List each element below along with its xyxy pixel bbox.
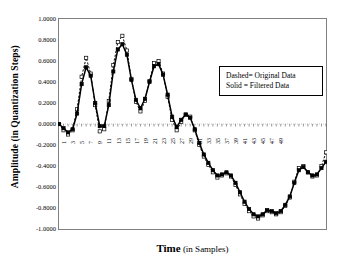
x-tick-label: 3	[70, 141, 76, 144]
y-tick-label: 0.6000	[4, 58, 56, 65]
legend-entry-solid: Solid = Filtered Data	[226, 81, 317, 91]
x-tick-label: 21	[152, 138, 158, 144]
y-tick-label: -0.8000	[4, 205, 56, 212]
y-axis-tick-labels: 1.00000.80000.60000.40000.20000.0000-0.2…	[0, 0, 56, 264]
y-tick-label: 1.0000	[4, 16, 56, 23]
x-axis-title-sub: (in Samples)	[181, 244, 229, 254]
y-tick-label: 0.4000	[4, 79, 56, 86]
x-axis-tick-labels: 1357911131517192123252729313335373941434…	[58, 130, 327, 152]
x-tick-label: 17	[134, 138, 140, 144]
y-tick-label: -0.2000	[4, 142, 56, 149]
x-tick-label: 5	[79, 141, 85, 144]
x-tick-label: 29	[188, 138, 194, 144]
x-tick-label: 23	[161, 138, 167, 144]
x-tick-label: 11	[106, 138, 112, 144]
x-axis-title: Time (in Samples)	[58, 243, 327, 254]
y-tick-label: -0.4000	[4, 163, 56, 170]
x-tick-label: 49	[278, 138, 284, 144]
chart-legend: Dashed= Original Data Solid = Filtered D…	[219, 66, 323, 96]
y-tick-label: -0.6000	[4, 184, 56, 191]
x-tick-label: 41	[242, 138, 248, 144]
x-tick-label: 19	[143, 138, 149, 144]
x-tick-label: 13	[116, 138, 122, 144]
x-tick-label: 1	[61, 141, 67, 144]
x-tick-label: 43	[251, 138, 257, 144]
x-tick-label: 9	[97, 141, 103, 144]
x-tick-label: 37	[224, 138, 230, 144]
x-tick-label: 27	[179, 138, 185, 144]
x-tick-label: 33	[206, 138, 212, 144]
y-tick-label: 0.2000	[4, 100, 56, 107]
x-tick-label: 39	[233, 138, 239, 144]
x-tick-label: 35	[215, 138, 221, 144]
y-tick-label: -1.0000	[4, 226, 56, 233]
y-tick-label: 0.0000	[4, 121, 56, 128]
x-tick-label: 7	[88, 141, 94, 144]
legend-entry-dashed: Dashed= Original Data	[226, 71, 317, 81]
x-tick-label: 31	[197, 138, 203, 144]
x-tick-label: 15	[125, 138, 131, 144]
x-tick-label: 45	[260, 138, 266, 144]
x-tick-label: 25	[170, 138, 176, 144]
x-axis-title-main: Time	[156, 242, 180, 254]
chart-figure: Amplitude (in Quantization Steps) 1.0000…	[0, 0, 339, 264]
chart-canvas	[58, 18, 327, 230]
y-tick-label: 0.8000	[4, 37, 56, 44]
x-tick-label: 47	[269, 138, 275, 144]
